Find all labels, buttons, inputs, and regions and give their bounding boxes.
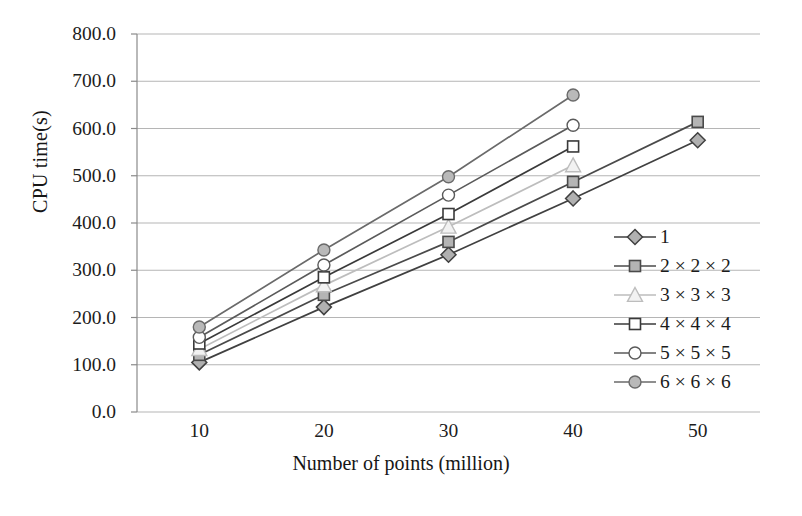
legend-marker-icon [612,284,658,306]
data-point-marker [318,272,329,283]
legend-marker-icon [612,313,658,335]
legend-label: 3 × 3 × 3 [658,284,731,306]
data-point-marker [318,244,330,256]
chart-legend: 12 × 2 × 23 × 3 × 34 × 4 × 45 × 5 × 56 ×… [612,222,792,396]
axis-lines [131,34,137,412]
data-point-marker [692,116,703,127]
series-6 [193,89,579,333]
legend-marker-icon [612,342,658,364]
legend-item-6[interactable]: 6 × 6 × 6 [612,367,792,396]
data-point-marker [318,259,330,271]
series-3 [192,158,581,356]
data-point-marker [568,141,579,152]
legend-item-1[interactable]: 1 [612,222,792,251]
data-point-marker [567,119,579,131]
data-point-marker [443,236,454,247]
legend-label: 5 × 5 × 5 [658,342,731,364]
data-point-marker [630,260,641,271]
data-point-marker [568,176,579,187]
data-point-marker [443,209,454,220]
series-5 [193,119,579,343]
data-point-marker [443,171,455,183]
x-axis-title: Number of points (million) [0,452,802,475]
legend-label: 1 [658,226,670,248]
data-point-marker [566,191,581,206]
legend-item-5[interactable]: 5 × 5 × 5 [612,338,792,367]
legend-item-2[interactable]: 2 × 2 × 2 [612,251,792,280]
data-point-marker [630,318,641,329]
data-point-marker [443,189,455,201]
data-point-marker [629,347,641,359]
series-line [199,165,573,349]
chart-figure: CPU time(s) 0.0100.0200.0300.0400.0500.0… [0,0,802,516]
series-line [199,95,573,327]
data-point-marker [441,219,456,233]
data-point-marker [567,89,579,101]
legend-label: 6 × 6 × 6 [658,371,731,393]
data-point-marker [316,300,331,315]
legend-item-4[interactable]: 4 × 4 × 4 [612,309,792,338]
legend-label: 4 × 4 × 4 [658,313,731,335]
data-point-marker [628,229,643,244]
legend-marker-icon [612,255,658,277]
data-point-marker [690,133,705,148]
legend-marker-icon [612,226,658,248]
data-point-marker [629,376,641,388]
data-point-marker [566,158,581,172]
legend-label: 2 × 2 × 2 [658,255,731,277]
data-point-marker [193,321,205,333]
legend-item-3[interactable]: 3 × 3 × 3 [612,280,792,309]
legend-marker-icon [612,371,658,393]
data-point-marker [441,247,456,262]
series-line [199,125,573,337]
